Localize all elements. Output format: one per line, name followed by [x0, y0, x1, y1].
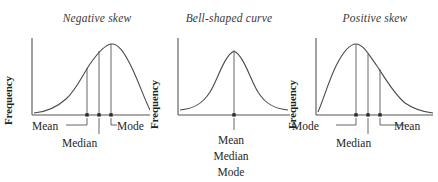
label-mode: Mode	[292, 120, 319, 132]
label-median: Median	[62, 137, 97, 149]
tick-mark-center	[232, 113, 235, 116]
tick-mark-mode	[354, 113, 357, 116]
distribution-curve	[318, 44, 433, 113]
label-mode: Mode	[148, 166, 302, 178]
panel-bell-shaped-curve: Bell-shaped curve Frequency Mean Median …	[148, 0, 290, 182]
label-mean: Mean	[148, 134, 302, 146]
label-median: Median	[336, 137, 371, 149]
tick-mark-median	[366, 113, 369, 116]
tick-mark-mean	[378, 113, 381, 116]
label-mean: Mean	[394, 120, 420, 132]
leader-line-mode	[336, 118, 356, 125]
plot-negative-skew	[0, 0, 150, 182]
tick-mark-mode	[109, 113, 112, 116]
panel-positive-skew: Positive skew Frequency Mode Mean	[288, 0, 438, 182]
panel-negative-skew: Negative skew Frequency Mean Mode	[0, 0, 150, 182]
label-mode: Mode	[117, 120, 144, 132]
plot-positive-skew	[288, 0, 438, 182]
skewness-diagram: Negative skew Frequency Mean Mode	[0, 0, 438, 182]
label-median: Median	[148, 150, 302, 162]
leader-line-mean	[66, 118, 87, 125]
distribution-curve	[34, 44, 150, 113]
tick-mark-mean	[85, 113, 88, 116]
label-mean: Mean	[32, 120, 58, 132]
tick-mark-median	[97, 113, 100, 116]
